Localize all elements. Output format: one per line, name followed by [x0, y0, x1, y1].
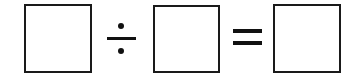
equals-bar-top: [233, 29, 262, 33]
divide-dot-top: [118, 23, 124, 29]
divide-icon: [107, 20, 137, 58]
quotient-blank-box[interactable]: [273, 4, 341, 73]
equals-icon: [233, 28, 263, 46]
divide-dot-bottom: [118, 48, 124, 54]
divide-bar: [107, 37, 136, 40]
divisor-blank-box[interactable]: [153, 5, 220, 73]
dividend-blank-box[interactable]: [24, 4, 92, 73]
equals-bar-bottom: [233, 41, 262, 45]
